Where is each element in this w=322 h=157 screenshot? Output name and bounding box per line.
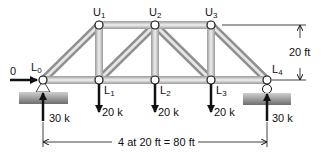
label-L0: L0 — [31, 62, 42, 75]
span-label: 4 at 20 ft = 80 ft — [118, 137, 195, 148]
load-label-L2: 20 k — [158, 107, 179, 118]
joint-L4 — [263, 76, 271, 84]
truss-diagram — [0, 0, 322, 157]
joint-L1 — [95, 76, 103, 84]
label-L3: L3 — [216, 85, 227, 98]
joint-L0 — [39, 76, 47, 84]
label-U1: U1 — [93, 7, 105, 20]
label-U2: U2 — [149, 7, 161, 20]
reaction-label-L4: 30 k — [272, 113, 293, 124]
label-U3: U3 — [205, 7, 217, 20]
joint-U3 — [207, 21, 215, 29]
label-L4: L4 — [272, 64, 283, 77]
reaction-label-L0: 30 k — [49, 113, 70, 124]
label-L2: L2 — [160, 85, 171, 98]
joint-U1 — [95, 21, 103, 29]
label-L1: L1 — [104, 85, 115, 98]
load-label-L3: 20 k — [214, 107, 235, 118]
joint-L3 — [207, 76, 215, 84]
joint-U2 — [151, 21, 159, 29]
load-label-L1: 20 k — [102, 107, 123, 118]
joint-L2 — [151, 76, 159, 84]
height-label: 20 ft — [289, 47, 310, 58]
horizontal-reaction-label: 0 — [10, 66, 16, 77]
